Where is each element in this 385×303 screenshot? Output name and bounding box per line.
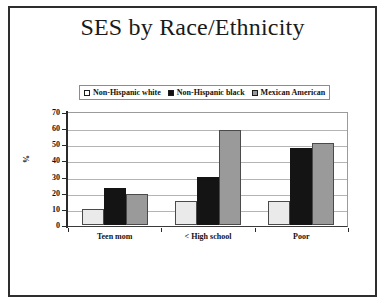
- bar-black: [290, 148, 312, 225]
- plot-frame: [68, 112, 348, 227]
- legend-item-non-hispanic-white: Non-Hispanic white: [84, 89, 161, 97]
- legend-label-non-hispanic-black: Non-Hispanic black: [177, 89, 245, 97]
- x-axis-category-label: Teen mom: [68, 233, 161, 241]
- chart-legend: Non-Hispanic white Non-Hispanic black Me…: [79, 85, 330, 100]
- y-axis-tick-label: 50: [40, 141, 60, 149]
- bar-white: [82, 209, 104, 225]
- bar-group: [161, 112, 254, 225]
- bar-black: [104, 188, 126, 225]
- bar-black: [197, 177, 219, 225]
- bar-group: [68, 112, 161, 225]
- legend-label-mexican-american: Mexican American: [261, 89, 326, 97]
- y-axis-tick: [62, 129, 67, 130]
- page-title: SES by Race/Ethnicity: [0, 14, 385, 41]
- y-axis-tick: [62, 178, 67, 179]
- x-axis-tick: [348, 228, 349, 232]
- y-axis-tick: [62, 145, 67, 146]
- y-axis-tick: [62, 113, 67, 114]
- legend-swatch-icon-gray: [252, 90, 258, 96]
- legend-item-non-hispanic-black: Non-Hispanic black: [168, 89, 245, 97]
- y-axis-tick-label: 0: [40, 222, 60, 230]
- bar-group: [255, 112, 348, 225]
- x-axis-tick: [255, 228, 256, 232]
- legend-swatch-icon-black: [168, 90, 174, 96]
- y-axis-title: %: [22, 155, 31, 163]
- y-axis-tick: [62, 210, 67, 211]
- x-axis-category-label: < High school: [161, 233, 254, 241]
- bar-gray: [126, 194, 148, 225]
- y-axis-tick-label: 20: [40, 190, 60, 198]
- y-axis-tick-label: 10: [40, 206, 60, 214]
- legend-label-non-hispanic-white: Non-Hispanic white: [93, 89, 161, 97]
- bar-gray: [312, 143, 334, 225]
- x-axis-tick: [68, 228, 69, 232]
- y-axis-tick: [62, 226, 67, 227]
- bar-white: [268, 201, 290, 225]
- y-axis-tick-label: 40: [40, 157, 60, 165]
- legend-item-mexican-american: Mexican American: [252, 89, 326, 97]
- x-axis-category-label: Poor: [255, 233, 348, 241]
- y-axis-tick: [62, 161, 67, 162]
- bar-gray: [219, 130, 241, 225]
- y-axis-tick-label: 60: [40, 125, 60, 133]
- x-axis-tick: [161, 228, 162, 232]
- legend-swatch-icon-white: [84, 90, 90, 96]
- bar-white: [175, 201, 197, 225]
- y-axis-tick-label: 70: [40, 109, 60, 117]
- y-axis-tick-label: 30: [40, 174, 60, 182]
- y-axis-tick: [62, 194, 67, 195]
- chart-plot-area: [68, 112, 348, 227]
- slide-canvas: SES by Race/Ethnicity Non-Hispanic white…: [0, 0, 385, 303]
